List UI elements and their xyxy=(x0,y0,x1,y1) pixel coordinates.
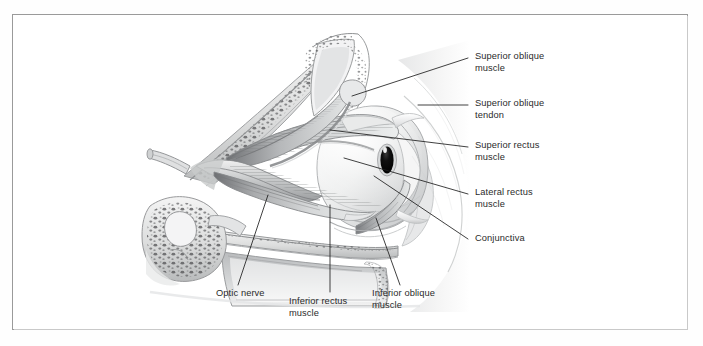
label-superior-oblique-tendon: Superior oblique tendon xyxy=(475,98,544,121)
label-superior-oblique-muscle: Superior oblique muscle xyxy=(475,51,544,74)
label-superior-rectus-muscle: Superior rectus muscle xyxy=(475,140,540,163)
page-root: Superior oblique muscle Superior oblique… xyxy=(0,0,703,346)
label-inferior-oblique-muscle: Inferior oblique muscle xyxy=(372,288,435,311)
label-conjunctiva: Conjunctiva xyxy=(475,233,525,245)
label-lateral-rectus-muscle: Lateral rectus muscle xyxy=(475,187,533,210)
label-optic-nerve: Optic nerve xyxy=(216,288,265,300)
label-inferior-rectus-muscle: Inferior rectus muscle xyxy=(289,296,347,319)
orbit-illustration xyxy=(0,0,703,346)
